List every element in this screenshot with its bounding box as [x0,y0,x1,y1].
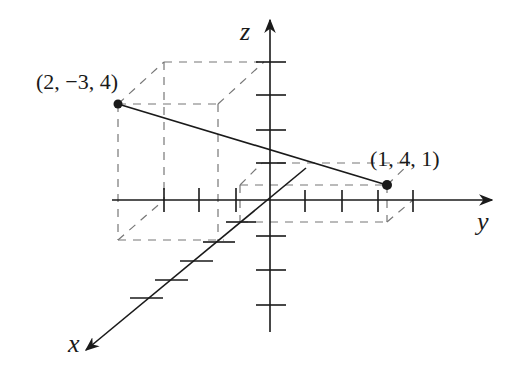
y-axis-label: y [474,207,489,236]
dashed-box-point-a [118,62,264,240]
point-a-marker [114,100,123,109]
x-axis-ticks [130,222,256,298]
point-a-label: (2, −3, 4) [36,69,118,94]
dashed-box-point-b [240,163,413,222]
x-axis-label: x [67,329,80,358]
z-axis-label: z [239,17,250,46]
z-axis-ticks [256,62,286,305]
x-axis [86,168,306,350]
point-b-label: (1, 4, 1) [370,146,440,171]
coordinate-diagram: (2, −3, 4) (1, 4, 1) z y x [0,0,524,371]
point-b-marker [382,180,392,190]
